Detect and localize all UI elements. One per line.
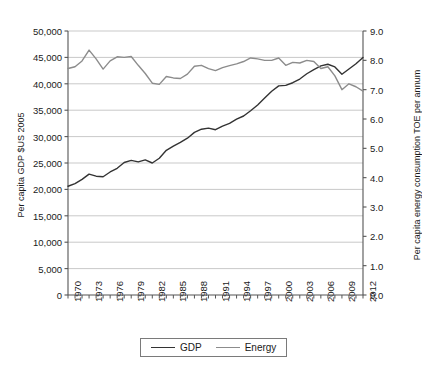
legend-item-energy[interactable]: Energy bbox=[216, 342, 277, 353]
legend-label: GDP bbox=[180, 342, 202, 353]
series-line-energy bbox=[68, 50, 363, 91]
legend-swatch-gdp-icon bbox=[151, 347, 175, 348]
legend-item-gdp[interactable]: GDP bbox=[151, 342, 202, 353]
chart-legend: GDPEnergy bbox=[140, 338, 287, 357]
chart-container: Per capita GDP $US 2005 Per capita energ… bbox=[0, 0, 422, 373]
series-line-gdp bbox=[68, 57, 363, 186]
legend-swatch-energy-icon bbox=[216, 347, 240, 348]
chart-plot-area bbox=[0, 0, 422, 373]
legend-label: Energy bbox=[245, 342, 277, 353]
